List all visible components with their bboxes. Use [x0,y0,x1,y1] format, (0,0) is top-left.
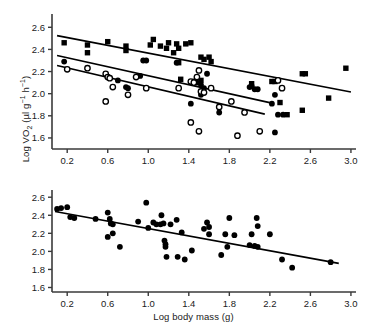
top-panel-svg: 1.61.82.02.22.42.60.20.61.01.41.82.22.63… [0,0,365,168]
y-tick-label: 1.8 [32,264,45,275]
y-tick-label: 1.6 [32,132,45,143]
data-point-circle-open [65,67,70,72]
data-point-square [166,40,171,45]
data-point-square [164,46,169,51]
data-point-circle [188,101,194,107]
data-point-circle [175,254,181,260]
x-tick-label: 0.2 [61,298,74,309]
y-tick-label: 2.2 [32,228,45,239]
data-point-circle [58,205,64,211]
data-point-circle [61,59,67,65]
data-point-circle [110,221,116,227]
data-point-square [148,42,153,47]
data-point-square [201,57,206,62]
regression-line [57,55,272,103]
data-point-circle [206,231,212,237]
x-tick-label: 2.6 [304,155,317,166]
data-point-circle [135,219,141,225]
bottom-panel-svg: 1.61.82.02.22.42.60.20.61.01.41.82.22.63… [0,168,365,311]
data-point-circle-open [103,99,108,104]
x-tick-label: 1.4 [182,298,195,309]
y-tick-label: 2.4 [32,44,45,55]
data-point-circle-open [229,99,234,104]
data-point-circle-open [217,104,222,109]
data-point-circle-open [188,120,193,125]
data-point-circle [279,257,285,263]
data-point-circle [216,110,222,116]
data-point-circle [105,210,111,216]
data-point-circle-open [194,74,199,79]
x-axis-label: Log body mass (g) [0,311,365,322]
x-tick-label: 1.8 [223,155,236,166]
data-point-square [176,46,181,51]
data-point-circle [168,221,174,227]
x-tick-label: 3.0 [344,155,357,166]
data-point-circle-open [201,90,206,95]
data-point-circle [179,230,185,236]
data-point-circle [255,223,261,229]
data-point-circle [272,130,278,136]
top-panel-tick-labels: 1.61.82.02.22.42.60.20.61.01.41.82.22.63… [32,22,358,166]
bottom-panel-data-points [54,200,333,271]
data-point-circle-open [191,80,196,85]
data-point-circle [115,77,121,83]
data-point-circle [269,101,275,107]
data-point-circle [328,259,334,265]
data-point-square [85,42,90,47]
data-point-circle [247,242,253,248]
data-point-circle-open [125,92,130,97]
data-point-circle [117,244,123,250]
data-point-circle-open [196,129,201,134]
x-tick-label: 1.0 [142,155,155,166]
data-point-square [178,77,183,82]
data-point-circle [201,226,207,232]
data-point-square [277,100,282,105]
data-point-circle-open [275,78,280,83]
data-point-circle [249,231,255,237]
data-point-square [158,43,163,48]
data-point-square [343,66,348,71]
data-point-square [123,48,128,53]
y-tick-label: 2.6 [32,192,45,203]
x-tick-label: 2.2 [263,155,276,166]
data-point-circle [159,212,165,218]
y-tick-label: 2.2 [32,66,45,77]
data-point-square [183,41,188,46]
data-point-square [188,40,193,45]
data-point-circle-open [107,75,112,80]
data-point-circle [71,215,77,221]
top-scatter-panel: 1.61.82.02.22.42.60.20.61.01.41.82.22.63… [0,0,365,168]
data-point-square [300,108,305,113]
data-point-square [208,59,213,64]
data-point-circle [189,248,195,254]
x-tick-label: 1.8 [223,298,236,309]
y-tick-label: 2.4 [32,210,45,221]
y-tick-label: 1.8 [32,110,45,121]
data-point-circle [93,216,99,222]
data-point-circle [206,224,212,230]
data-point-circle [267,231,273,237]
data-point-square [303,71,308,76]
data-point-circle [289,265,295,271]
x-tick-label: 0.6 [101,155,114,166]
data-point-circle [204,71,210,77]
data-point-circle [224,244,230,250]
data-point-circle-open [235,133,240,138]
x-tick-label: 0.6 [101,298,114,309]
data-point-circle-open [208,85,213,90]
data-point-circle [255,244,261,250]
x-tick-label: 3.0 [344,298,357,309]
bottom-panel-axes [48,190,356,296]
data-point-circle [232,232,238,238]
data-point-circle-open [176,85,181,90]
data-point-circle-open [279,85,284,90]
data-point-circle-open [144,85,149,90]
data-point-circle [275,112,281,118]
data-point-circle [125,85,131,91]
data-point-circle [143,200,149,206]
x-tick-label: 2.2 [263,298,276,309]
data-point-circle [182,257,188,263]
data-point-circle [164,254,170,260]
top-panel-data-points [61,37,348,139]
x-tick-label: 2.6 [304,298,317,309]
